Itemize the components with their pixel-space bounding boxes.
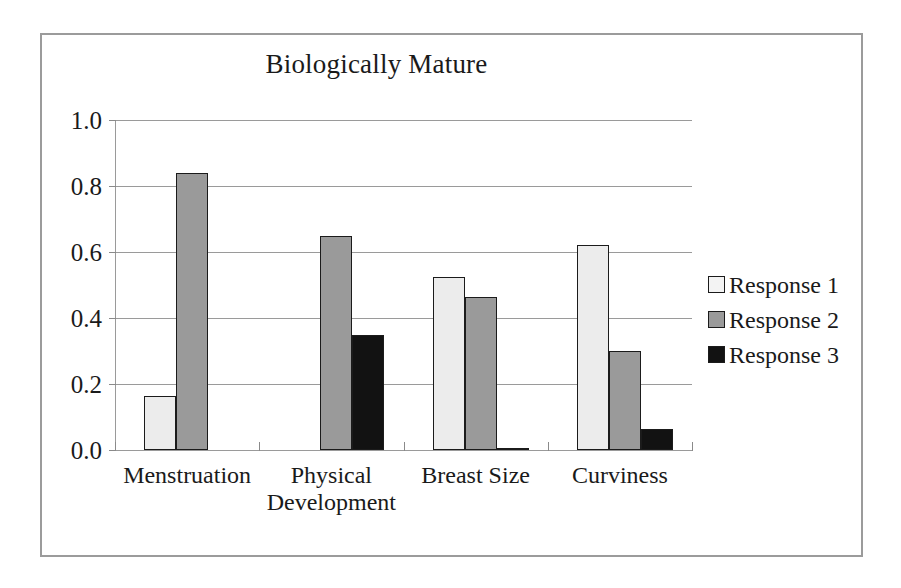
legend-item-1[interactable]: Response 1 (708, 267, 858, 302)
y-tick-label: 0.8 (71, 174, 102, 199)
category-label: Physical Development (259, 462, 403, 516)
legend-label: Response 2 (729, 308, 839, 332)
y-tick-mark (109, 120, 116, 121)
y-tick-label: 0.0 (71, 438, 102, 463)
chart-frame: Biologically Mature 1.00.80.60.40.20.0 M… (40, 33, 863, 557)
y-tick-label: 0.6 (71, 240, 102, 265)
legend-swatch-icon (708, 276, 725, 293)
bar-2-3 (465, 297, 497, 450)
bar-1-3 (433, 277, 465, 450)
y-axis-line (115, 120, 116, 450)
bar-2-4 (609, 351, 641, 450)
category-separator (548, 442, 549, 451)
bar-3-2 (352, 335, 384, 451)
bar-2-2 (320, 236, 352, 451)
y-tick-label: 1.0 (71, 108, 102, 133)
bar-3-3 (497, 448, 529, 451)
bar-2-1 (176, 173, 208, 450)
bar-3-4 (641, 429, 673, 450)
y-tick-mark (109, 252, 116, 253)
bar-1-1 (144, 396, 176, 450)
y-tick-mark (109, 186, 116, 187)
legend-swatch-icon (708, 346, 725, 363)
category-label: Menstruation (115, 462, 259, 489)
y-tick-label: 0.4 (71, 306, 102, 331)
bar-1-4 (577, 245, 609, 450)
legend-item-3[interactable]: Response 3 (708, 337, 858, 372)
y-tick-mark (109, 384, 116, 385)
category-label: Curviness (548, 462, 692, 489)
chart-title: Biologically Mature (42, 49, 861, 80)
legend-item-2[interactable]: Response 2 (708, 302, 858, 337)
category-separator (404, 442, 405, 451)
gridline (115, 120, 692, 121)
legend-swatch-icon (708, 311, 725, 328)
category-label: Breast Size (404, 462, 548, 489)
category-separator (115, 442, 116, 451)
y-tick-label: 0.2 (71, 372, 102, 397)
legend-label: Response 1 (729, 273, 839, 297)
category-separator (259, 442, 260, 451)
legend-label: Response 3 (729, 343, 839, 367)
chart-title-text: Biologically Mature (265, 49, 487, 80)
y-tick-mark (109, 318, 116, 319)
plot-area: 1.00.80.60.40.20.0 MenstruationPhysical … (115, 120, 692, 450)
chart-legend: Response 1Response 2Response 3 (708, 267, 858, 372)
category-separator (692, 442, 693, 451)
